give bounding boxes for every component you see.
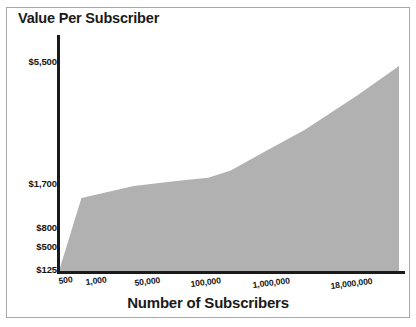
area-series-shape (59, 66, 399, 271)
y-tick-label: $1,700 (29, 178, 57, 189)
x-tick-label: 500 (58, 274, 73, 286)
y-tick-label: $125 (36, 264, 57, 275)
chart-figure: Value Per Subscriber $5,500 $1,700 $800 … (0, 0, 416, 327)
y-tick-label: $800 (36, 222, 57, 233)
x-axis-title: Number of Subscribers (0, 294, 416, 311)
y-tick-label: $500 (36, 241, 57, 252)
y-tick-label: $5,500 (29, 56, 57, 67)
